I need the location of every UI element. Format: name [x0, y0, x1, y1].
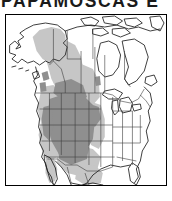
coast-arctic-islands [81, 17, 99, 26]
north-america-map [6, 15, 166, 185]
coast-arctic-islands-d [93, 28, 109, 36]
coast-lake-ontario [132, 104, 141, 111]
coast-florida [128, 163, 140, 185]
light-range-mexican-plateau [75, 165, 103, 185]
dark-range-bc-coast-a [42, 71, 50, 81]
border-us-canada-east [105, 89, 145, 103]
page-title: PAPAMOSCAS E [0, 0, 172, 11]
coast-aleutians [12, 66, 29, 71]
border-new-england [140, 95, 150, 107]
map-frame [5, 14, 167, 186]
coast-arctic-islands-e [113, 28, 131, 37]
coast-arctic-islands-c [125, 18, 143, 27]
border-east-d [117, 157, 137, 161]
range-map-figure: PAPAMOSCAS E [0, 0, 172, 201]
bottom-gutter [0, 187, 172, 201]
coast-arctic-islands-b [103, 16, 123, 25]
dark-range-isolated-patch [95, 76, 101, 86]
coast-hudson-bay [97, 41, 121, 77]
coast-atlantic [134, 87, 152, 183]
coast-newfoundland [145, 75, 157, 86]
dark-range-bc-coast-b [40, 82, 47, 92]
figure-title-bar: PAPAMOSCAS E [0, 0, 172, 13]
coast-lake-huron-erie [120, 97, 133, 113]
coast-labrador [123, 39, 149, 85]
coast-greenland-edge [150, 16, 164, 31]
